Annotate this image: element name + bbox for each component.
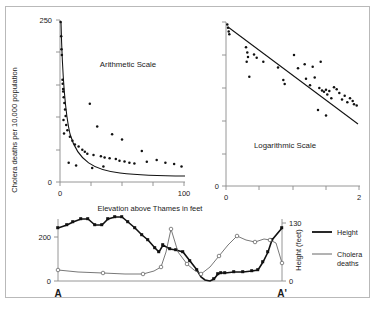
transect-start-label: A [54, 288, 61, 299]
logarithmic-points [226, 23, 358, 117]
arithmetic-y-axis-title: Cholera deaths per 10,000 population [10, 67, 19, 193]
panel-logarithmic: 0 0 2 [215, 22, 361, 202]
figure-root: 250 0 0 100 [0, 0, 376, 313]
arithmetic-fit-curve [61, 22, 185, 176]
legend-label-cholera-line2: deaths [337, 259, 359, 268]
transect-ytick-right-0: 0 [289, 277, 293, 286]
arithmetic-ytick-0: 0 [48, 178, 52, 187]
logarithmic-x-ticks [226, 186, 359, 190]
transect-ytick-left-200: 200 [38, 233, 51, 242]
arithmetic-x-axis-title: Elevation above Thames in feet [98, 204, 204, 213]
legend-label-cholera-line1: Cholera [337, 250, 362, 259]
transect-ytick-right-130: 130 [289, 219, 302, 228]
arithmetic-ytick-250: 250 [39, 16, 52, 25]
logarithmic-xtick-2: 2 [357, 193, 361, 202]
arithmetic-points [59, 21, 182, 169]
transect-ytick-left-0: 0 [47, 277, 51, 286]
arithmetic-axes [60, 20, 185, 182]
logarithmic-y-ticks [222, 22, 226, 186]
panel-transect: 200 0 130 0 [38, 215, 362, 299]
transect-legend: Height Cholera deaths [312, 228, 362, 268]
arithmetic-x-ticks [60, 182, 184, 186]
arithmetic-panel-label: Arithmetic Scale [100, 60, 156, 69]
transect-right-axis-title: Height (feet) [294, 229, 303, 271]
logarithmic-xtick-0: 0 [224, 193, 228, 202]
arithmetic-xtick-0: 0 [58, 189, 62, 198]
arithmetic-y-ticks [56, 20, 60, 182]
figure-canvas: 250 0 0 100 [0, 0, 376, 313]
panel-arithmetic: 250 0 0 100 [39, 16, 190, 198]
legend-label-height: Height [337, 228, 358, 237]
arithmetic-xtick-100: 100 [178, 189, 191, 198]
logarithmic-fit-line [228, 27, 358, 124]
transect-series-cholera [58, 229, 282, 274]
transect-height-markers [56, 215, 283, 280]
logarithmic-panel-label: Logarithmic Scale [254, 141, 316, 150]
transect-end-label: A' [277, 288, 287, 299]
logarithmic-ytick-0: 0 [215, 182, 219, 191]
